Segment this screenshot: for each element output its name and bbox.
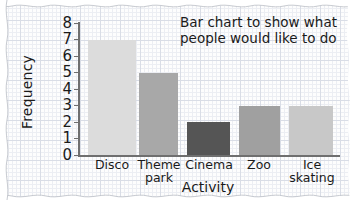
bar-cinema [187,122,230,155]
bar-zoo [239,106,280,156]
y-tick-mark-1 [74,138,78,139]
x-tick-label-zoo: Zoo [235,158,283,171]
y-tick-label-6: 6 [58,49,72,64]
y-tick-mark-8 [74,23,78,24]
y-axis-line [78,22,80,156]
bar-theme-park [139,73,178,156]
chart-title: Bar chart to show what people would like… [180,14,352,46]
chart-title-line-2: people would like to do [180,30,352,46]
y-tick-label-7: 7 [58,32,72,47]
y-tick-label-4: 4 [58,82,72,97]
y-tick-mark-7 [74,39,78,40]
y-tick-mark-4 [74,89,78,90]
y-tick-label-1: 1 [58,131,72,146]
y-tick-label-2: 2 [58,115,72,130]
x-axis-title: Activity [160,179,256,195]
bar-ice-skating [289,106,333,156]
y-tick-mark-5 [74,72,78,73]
chart-plot-area: Bar chart to show what people would like… [0,0,353,203]
x-tick-label-disco: Disco [86,158,138,171]
y-tick-label-0: 0 [58,148,72,163]
x-tick-label-cinema: Cinema [182,158,236,171]
y-tick-mark-0 [74,155,78,156]
y-tick-mark-3 [74,105,78,106]
y-tick-label-5: 5 [58,65,72,80]
y-tick-label-3: 3 [58,98,72,113]
y-tick-label-8: 8 [58,16,72,31]
x-tick-label-ice-skating-line-2: skating [284,171,340,184]
x-tick-label-cinema-line-1: Cinema [182,158,236,171]
y-axis-title: Frequency [19,49,35,135]
bar-disco [88,40,136,156]
y-tick-mark-6 [74,56,78,57]
graph-paper-page: Bar chart to show what people would like… [0,0,353,203]
x-tick-label-ice-skating: Ice skating [284,158,340,184]
chart-title-line-1: Bar chart to show what [180,14,352,30]
x-tick-label-zoo-line-1: Zoo [235,158,283,171]
x-tick-label-disco-line-1: Disco [86,158,138,171]
y-axis-tick-labels: 0 1 2 3 4 5 6 7 8 [54,0,72,203]
y-tick-mark-2 [74,122,78,123]
